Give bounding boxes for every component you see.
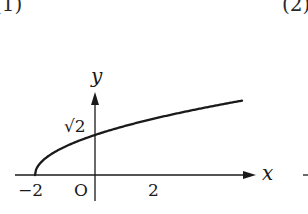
x-tick-neg2: −2 [18, 182, 43, 199]
sqrt-curve [35, 101, 242, 175]
y-axis-label: y [91, 66, 102, 86]
x-axis-label: x [262, 163, 273, 183]
y-intercept-label: √2 [64, 118, 86, 135]
y-axis-arrow-icon [91, 92, 99, 105]
origin-label: O [74, 182, 88, 199]
x-axis-arrow-icon [243, 171, 256, 179]
x-tick-2: 2 [148, 182, 159, 199]
